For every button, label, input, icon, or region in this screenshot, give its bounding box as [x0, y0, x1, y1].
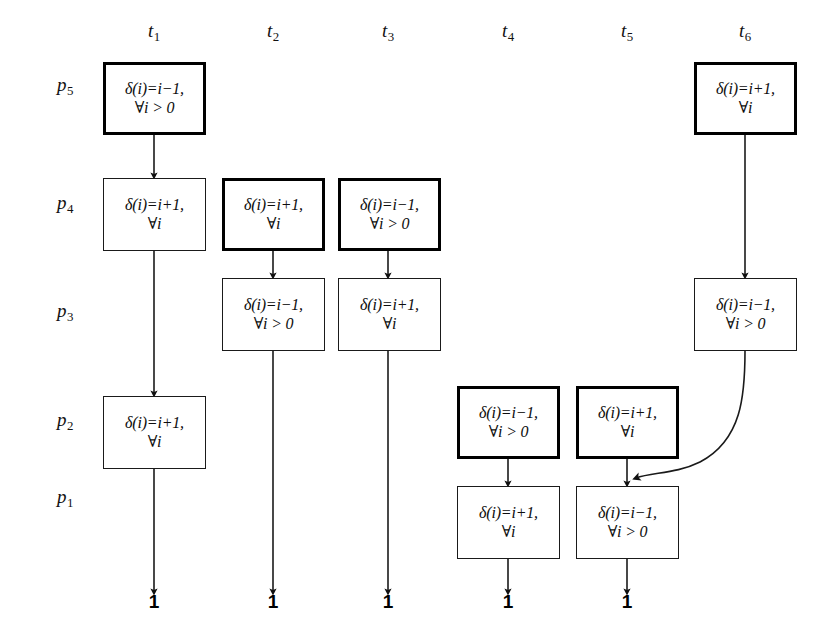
- column-header-t1: t1: [148, 20, 160, 45]
- event-box-condition: ∀i > 0: [254, 315, 294, 334]
- row-label-subscript: 5: [67, 82, 73, 97]
- event-box-condition: ∀i: [267, 215, 281, 234]
- row-label-subscript: 1: [67, 494, 73, 509]
- event-box-t5-p2[interactable]: δ(i)=i+1,∀i: [576, 386, 679, 459]
- column-header-subscript: 1: [154, 29, 160, 44]
- column-header-subscript: 3: [388, 29, 394, 44]
- column-header-base: t: [382, 20, 387, 41]
- event-box-t6-p3[interactable]: δ(i)=i−1,∀i > 0: [694, 278, 797, 351]
- event-box-t4-p2[interactable]: δ(i)=i−1,∀i > 0: [457, 386, 560, 459]
- row-label-base: p: [57, 192, 67, 213]
- event-box-transition: δ(i)=i−1,: [244, 296, 303, 315]
- column-header-base: t: [267, 20, 272, 41]
- terminal-marker-t4: 1: [503, 591, 514, 613]
- column-header-t5: t5: [621, 20, 633, 45]
- event-box-t5-p1[interactable]: δ(i)=i−1,∀i > 0: [576, 486, 679, 559]
- terminal-marker-t5: 1: [622, 591, 633, 613]
- event-box-t1-p2[interactable]: δ(i)=i+1,∀i: [103, 396, 206, 469]
- row-label-p1: p1: [57, 486, 73, 511]
- event-box-condition: ∀i > 0: [135, 99, 175, 118]
- column-header-t4: t4: [502, 20, 514, 45]
- event-box-condition: ∀i: [383, 315, 397, 334]
- event-box-transition: δ(i)=i+1,: [716, 80, 775, 99]
- event-box-condition: ∀i: [739, 99, 753, 118]
- event-box-condition: ∀i: [502, 523, 516, 542]
- event-box-t4-p1[interactable]: δ(i)=i+1,∀i: [457, 486, 560, 559]
- event-box-t1-p4[interactable]: δ(i)=i+1,∀i: [103, 178, 206, 251]
- row-label-p4: p4: [57, 192, 73, 217]
- row-label-base: p: [57, 486, 67, 507]
- event-box-condition: ∀i: [621, 423, 635, 442]
- row-label-base: p: [57, 300, 67, 321]
- column-header-base: t: [739, 20, 744, 41]
- column-header-base: t: [621, 20, 626, 41]
- terminal-marker-t1: 1: [149, 591, 160, 613]
- event-box-t6-p5[interactable]: δ(i)=i+1,∀i: [694, 62, 797, 135]
- event-box-transition: δ(i)=i−1,: [125, 80, 184, 99]
- row-label-p5: p5: [57, 74, 73, 99]
- column-header-t3: t3: [382, 20, 394, 45]
- event-box-condition: ∀i: [148, 433, 162, 452]
- event-box-transition: δ(i)=i+1,: [598, 404, 657, 423]
- event-box-condition: ∀i > 0: [726, 315, 766, 334]
- column-header-base: t: [502, 20, 507, 41]
- event-box-transition: δ(i)=i+1,: [125, 196, 184, 215]
- event-box-condition: ∀i > 0: [370, 215, 410, 234]
- event-box-transition: δ(i)=i−1,: [479, 404, 538, 423]
- event-box-transition: δ(i)=i+1,: [125, 414, 184, 433]
- event-box-transition: δ(i)=i−1,: [598, 504, 657, 523]
- column-header-subscript: 2: [273, 29, 279, 44]
- column-header-subscript: 5: [627, 29, 633, 44]
- row-label-base: p: [57, 409, 67, 430]
- terminal-marker-t2: 1: [268, 591, 279, 613]
- event-box-t1-p5[interactable]: δ(i)=i−1,∀i > 0: [103, 62, 206, 135]
- row-label-subscript: 4: [67, 200, 73, 215]
- event-box-condition: ∀i > 0: [489, 423, 529, 442]
- event-box-condition: ∀i: [148, 215, 162, 234]
- event-box-transition: δ(i)=i−1,: [360, 196, 419, 215]
- event-box-t3-p3[interactable]: δ(i)=i+1,∀i: [338, 278, 441, 351]
- event-box-t2-p4[interactable]: δ(i)=i+1,∀i: [222, 178, 325, 251]
- row-label-subscript: 3: [67, 308, 73, 323]
- column-header-subscript: 6: [745, 29, 751, 44]
- row-label-base: p: [57, 74, 67, 95]
- message-sequence-diagram: t1t2t3t4t5t6 p5p4p3p2p1 δ(i)=i−1,∀i > 0δ…: [0, 0, 829, 633]
- column-header-t6: t6: [739, 20, 751, 45]
- event-box-transition: δ(i)=i+1,: [244, 196, 303, 215]
- row-label-p3: p3: [57, 300, 73, 325]
- event-box-transition: δ(i)=i+1,: [360, 296, 419, 315]
- column-header-subscript: 4: [508, 29, 514, 44]
- event-box-t2-p3[interactable]: δ(i)=i−1,∀i > 0: [222, 278, 325, 351]
- column-header-base: t: [148, 20, 153, 41]
- row-label-subscript: 2: [67, 417, 73, 432]
- event-box-transition: δ(i)=i+1,: [479, 504, 538, 523]
- column-header-t2: t2: [267, 20, 279, 45]
- event-box-transition: δ(i)=i−1,: [716, 296, 775, 315]
- event-box-t3-p4[interactable]: δ(i)=i−1,∀i > 0: [338, 178, 441, 251]
- event-box-condition: ∀i > 0: [608, 523, 648, 542]
- terminal-marker-t3: 1: [383, 591, 394, 613]
- row-label-p2: p2: [57, 409, 73, 434]
